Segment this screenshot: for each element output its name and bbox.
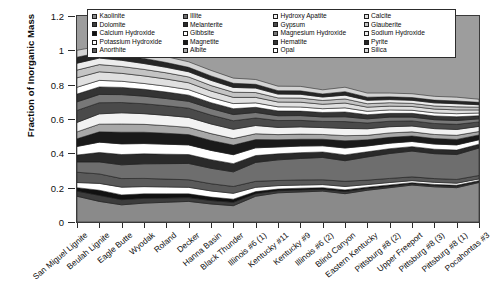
legend-item: Melanterite <box>183 21 272 30</box>
legend-swatch-icon <box>92 22 97 27</box>
legend-swatch-icon <box>364 40 369 45</box>
legend-item: Magnesium Hydroxide <box>273 29 362 38</box>
legend-item: Glauberite <box>364 21 453 30</box>
legend-swatch-icon <box>92 31 97 36</box>
legend-swatch-icon <box>273 22 278 27</box>
legend-item: Hematite <box>273 38 362 47</box>
legend-label: Gibbsite <box>190 29 214 38</box>
legend-swatch-icon <box>364 31 369 36</box>
legend-label: Pyrite <box>371 38 388 47</box>
legend-swatch-icon <box>273 48 278 53</box>
legend-label: Calcium Hydroxide <box>100 29 155 38</box>
legend-swatch-icon <box>273 14 278 19</box>
legend-label: Hematite <box>281 38 307 47</box>
legend-item: Silica <box>364 46 453 55</box>
legend-label: Glauberite <box>371 21 401 30</box>
legend-swatch-icon <box>92 14 97 19</box>
legend-item: Potassium Hydroxide <box>92 38 181 47</box>
legend-swatch-icon <box>364 48 369 53</box>
legend-label: Magnetite <box>190 38 219 47</box>
legend-item: Illite <box>183 12 272 21</box>
legend-label: Gypsum <box>281 21 306 30</box>
legend-label: Albite <box>190 46 207 55</box>
legend-item: Anorthite <box>92 46 181 55</box>
legend-item: Dolomite <box>92 21 181 30</box>
legend-item: Sodium Hydroxide <box>364 29 453 38</box>
legend-label: Anorthite <box>100 46 126 55</box>
legend-item: Pyrite <box>364 38 453 47</box>
legend-label: Kaolinite <box>100 12 125 21</box>
legend-item: Calcium Hydroxide <box>92 29 181 38</box>
legend-swatch-icon <box>92 48 97 53</box>
legend-label: Silica <box>371 46 387 55</box>
legend-swatch-icon <box>273 31 278 36</box>
legend-item: Gypsum <box>273 21 362 30</box>
legend-item: Gibbsite <box>183 29 272 38</box>
legend-item: Opal <box>273 46 362 55</box>
legend-swatch-icon <box>92 40 97 45</box>
legend-swatch-icon <box>183 40 188 45</box>
legend-swatch-icon <box>183 22 188 27</box>
legend-label: Potassium Hydroxide <box>100 38 162 47</box>
legend-item: Kaolinite <box>92 12 181 21</box>
legend-item: Calcite <box>364 12 453 21</box>
legend-swatch-icon <box>183 31 188 36</box>
legend-label: Opal <box>281 46 295 55</box>
legend-item: Magnetite <box>183 38 272 47</box>
legend-label: Melanterite <box>190 21 223 30</box>
legend-swatch-icon <box>364 14 369 19</box>
legend-item: Hydroxy Apatite <box>273 12 362 21</box>
legend-label: Hydroxy Apatite <box>281 12 327 21</box>
legend-label: Illite <box>190 12 202 21</box>
legend-label: Sodium Hydroxide <box>371 29 425 38</box>
legend-swatch-icon <box>183 48 188 53</box>
legend-label: Magnesium Hydroxide <box>281 29 347 38</box>
legend-label: Dolomite <box>100 21 126 30</box>
legend-swatch-icon <box>183 14 188 19</box>
legend-item: Albite <box>183 46 272 55</box>
legend-swatch-icon <box>273 40 278 45</box>
legend: KaoliniteDolomiteCalcium HydroxidePotass… <box>87 9 456 58</box>
legend-label: Calcite <box>371 12 391 21</box>
legend-swatch-icon <box>364 22 369 27</box>
